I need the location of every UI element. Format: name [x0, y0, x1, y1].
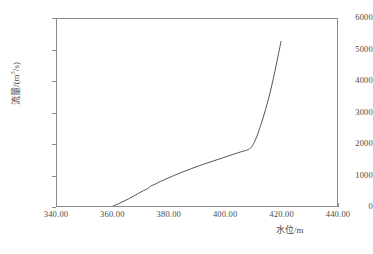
- chart-figure: 0 1000 2000 3000 4000 5000 6000 340.00 3…: [0, 0, 373, 254]
- x-tick-label: 360.00: [82, 209, 142, 219]
- curve-svg: [57, 19, 337, 206]
- plot-area: [56, 18, 338, 207]
- y-axis-label: 流量/(m3/s): [11, 24, 22, 144]
- y-tick-mark: [52, 207, 56, 208]
- x-tick-label: 380.00: [139, 209, 199, 219]
- x-tick-mark: [338, 203, 339, 207]
- x-tick-label: 420.00: [252, 209, 312, 219]
- x-axis-label: 水位/m: [276, 225, 304, 236]
- y-axis-label-suffix: /s): [11, 62, 21, 71]
- x-tick-label: 340.00: [26, 209, 86, 219]
- y-axis-label-prefix: 流量/(m: [11, 74, 21, 105]
- y-axis-label-exponent: 3: [9, 71, 16, 74]
- x-tick-label: 400.00: [195, 209, 255, 219]
- x-tick-label: 440.00: [308, 209, 368, 219]
- stage-discharge-curve: [113, 41, 281, 206]
